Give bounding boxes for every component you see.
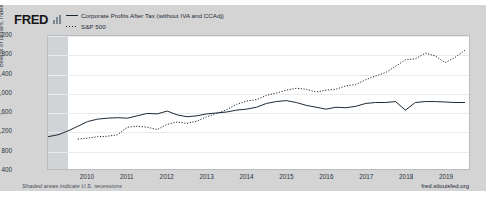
series-line — [78, 50, 465, 139]
legend-item-corporate-profits[interactable]: Corporate Profits After Tax (without IVA… — [66, 11, 224, 20]
y-axis-tick: 2,000 — [0, 89, 12, 96]
y-axis-tick: 3,200 — [0, 31, 12, 38]
chart-header: FRED Corporate Profits After Tax (withou… — [14, 11, 474, 33]
chart-panel: FRED Corporate Profits After Tax (withou… — [0, 5, 486, 191]
y-axis-tick: 400 — [0, 166, 12, 173]
source-link[interactable]: fred.stlouisfed.org — [421, 183, 469, 189]
y-axis-tick: 1,200 — [0, 127, 12, 134]
y-axis-tick: 2,800 — [0, 50, 12, 57]
series-line — [48, 101, 465, 137]
bar-chart-icon — [53, 15, 62, 24]
fred-logo: FRED — [14, 12, 48, 27]
legend-label: S&P 500 — [81, 22, 106, 31]
legend-label: Corporate Profits After Tax (without IVA… — [81, 11, 224, 20]
legend-item-sp500[interactable]: S&P 500 — [66, 22, 224, 31]
legend-swatch-dotted-icon — [66, 22, 78, 31]
recession-note: Shaded areas indicate U.S. recessions — [22, 183, 122, 189]
chart-legend: Corporate Profits After Tax (without IVA… — [66, 11, 224, 33]
y-axis-tick: 800 — [0, 147, 12, 154]
series-lines — [48, 36, 469, 169]
y-axis-tick: 1,600 — [0, 108, 12, 115]
legend-swatch-solid-icon — [66, 11, 78, 20]
y-axis-tick: 2,400 — [0, 70, 12, 77]
x-axis-tick: 2019 — [421, 173, 471, 180]
plot-area — [47, 35, 470, 170]
